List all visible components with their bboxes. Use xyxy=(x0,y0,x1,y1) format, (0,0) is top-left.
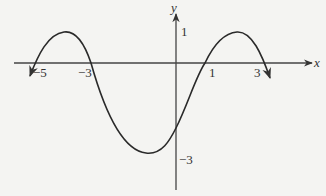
x-tick-label-neg3: −3 xyxy=(78,65,92,80)
x-tick-label-neg5: −5 xyxy=(33,65,47,80)
y-tick-label-neg3: −3 xyxy=(179,152,193,167)
x-tick-label-1: 1 xyxy=(209,65,216,80)
function-curve xyxy=(30,32,270,153)
function-graph: x y −5 −3 1 3 1 −3 xyxy=(0,0,326,196)
x-axis-label: x xyxy=(313,55,320,70)
y-axis-label: y xyxy=(169,0,177,15)
y-tick-label-1: 1 xyxy=(181,24,188,39)
x-tick-label-3: 3 xyxy=(254,65,261,80)
